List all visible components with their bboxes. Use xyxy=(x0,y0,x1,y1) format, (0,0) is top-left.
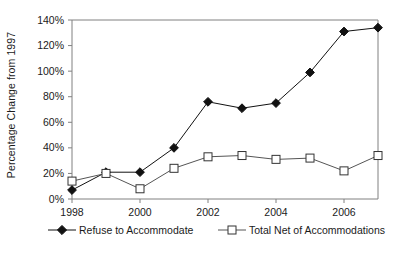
y-tick-label: 140% xyxy=(37,14,64,26)
open-square-marker-icon xyxy=(218,224,246,236)
chart-container: Percentage Change from 1997 0%20%40%60%8… xyxy=(0,0,407,254)
plot-area: 0%20%40%60%80%100%120%140% 1998200020022… xyxy=(0,0,407,254)
series-filled-diamond xyxy=(68,23,383,194)
data-point-diamond xyxy=(374,23,383,32)
x-tick-label-group: 19982000200220042006 xyxy=(60,206,356,218)
chart-legend: Refuse to Accommodate Total Net of Accom… xyxy=(0,221,407,245)
x-tick-label: 2004 xyxy=(264,206,288,218)
filled-diamond-marker-icon xyxy=(48,224,76,236)
y-tick-label: 100% xyxy=(37,65,64,77)
y-tick-label: 0% xyxy=(49,193,64,205)
data-point-diamond xyxy=(204,97,213,106)
x-tick-label: 2000 xyxy=(128,206,152,218)
data-point-diamond xyxy=(136,168,145,177)
data-point-square xyxy=(238,152,246,160)
x-tick-label: 1998 xyxy=(60,206,84,218)
x-tick-mark-group xyxy=(72,199,344,203)
data-point-square xyxy=(68,177,76,185)
data-point-square xyxy=(272,155,280,163)
data-point-diamond xyxy=(238,104,247,113)
y-tick-label: 40% xyxy=(43,141,64,153)
y-tick-mark-group xyxy=(68,20,72,199)
y-tick-label: 60% xyxy=(43,116,64,128)
data-point-square xyxy=(136,185,144,193)
x-tick-label: 2002 xyxy=(196,206,220,218)
data-point-square xyxy=(102,169,110,177)
y-tick-label-group: 0%20%40%60%80%100%120%140% xyxy=(37,14,64,205)
y-tick-label: 20% xyxy=(43,167,64,179)
data-point-square xyxy=(204,153,212,161)
legend-label-refuse-to-accommodate: Refuse to Accommodate xyxy=(79,224,193,236)
data-point-square xyxy=(374,152,382,160)
legend-item-total-net-of-accommodations: Total Net of Accommodations xyxy=(218,221,385,239)
x-tick-label: 2006 xyxy=(332,206,356,218)
data-point-diamond xyxy=(68,186,77,195)
data-point-diamond xyxy=(170,143,179,152)
data-point-square xyxy=(306,154,314,162)
data-point-square xyxy=(170,164,178,172)
data-point-square xyxy=(340,167,348,175)
y-tick-label: 120% xyxy=(37,39,64,51)
legend-item-refuse-to-accommodate: Refuse to Accommodate xyxy=(48,221,193,239)
legend-label-total-net-of-accommodations: Total Net of Accommodations xyxy=(249,224,385,236)
y-tick-label: 80% xyxy=(43,90,64,102)
series-group xyxy=(68,23,383,194)
